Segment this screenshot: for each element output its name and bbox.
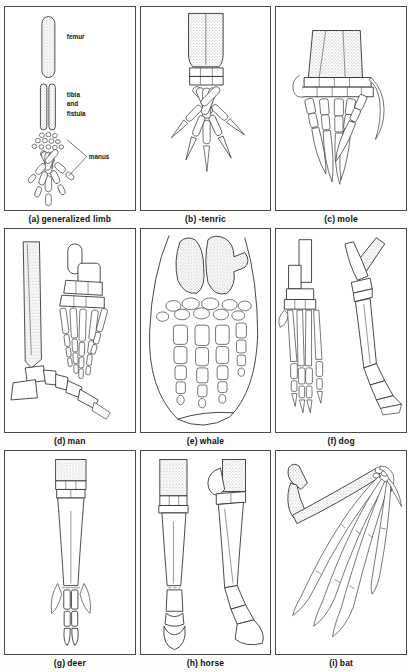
panel-c-mole[interactable]: [275, 6, 407, 211]
caption-h-text: horse: [200, 658, 224, 668]
comparative-limb-figure: femur tibia and fistula manus (a)general…: [0, 0, 411, 672]
label-tibia-line1: tibia: [67, 91, 80, 98]
bone-femur: [42, 17, 55, 78]
caption-b: (b)-tenric: [140, 211, 272, 226]
panel-i-bat[interactable]: [275, 450, 407, 655]
caption-d-text: man: [68, 436, 86, 446]
digit-rays: [62, 588, 80, 646]
panel-cell-b: (b)-tenric: [140, 6, 272, 226]
bone-radius-ulna: [205, 236, 247, 294]
caption-d-tag: (d): [54, 436, 65, 446]
bone-humerus: [176, 238, 204, 293]
caption-c: (c)mole: [275, 211, 407, 226]
panel-cell-e: (e)whale: [140, 228, 272, 448]
flipper-edge: [177, 412, 233, 419]
caption-e-text: whale: [200, 436, 225, 446]
caption-h: (h)horse: [140, 655, 272, 670]
caption-e: (e)whale: [140, 433, 272, 448]
panel-f-dog[interactable]: [275, 228, 407, 433]
panel-cell-h: (h)horse: [140, 450, 272, 670]
panel-a-generalized-limb[interactable]: femur tibia and fistula manus: [4, 6, 136, 211]
panel-e-whale[interactable]: [140, 228, 272, 433]
dog-front-view: [279, 240, 323, 413]
panel-c-art: [276, 7, 406, 210]
caption-g-tag: (g): [54, 658, 65, 668]
digit-rays: [293, 477, 391, 637]
panel-f-art: [276, 229, 406, 432]
carpal-block: [189, 68, 222, 85]
panel-cell-g: (g)deer: [4, 450, 136, 670]
caption-d: (d)man: [4, 433, 136, 448]
horse-side-view: [208, 460, 263, 645]
caption-b-tag: (b): [185, 214, 196, 224]
horse-front-view: [158, 460, 187, 650]
carpal-plate: [302, 78, 373, 97]
panel-i-art: [276, 451, 406, 654]
panel-cell-a: femur tibia and fistula manus (a)general…: [4, 6, 136, 226]
panel-g-art: [5, 451, 135, 654]
panel-e-art: [141, 229, 271, 432]
panel-h-horse[interactable]: [140, 450, 272, 655]
caption-f: (f)dog: [275, 433, 407, 448]
label-manus: manus: [89, 153, 110, 160]
caption-i: (i)bat: [275, 655, 407, 670]
caption-i-text: bat: [340, 658, 353, 668]
panel-cell-f: (f)dog: [275, 228, 407, 448]
label-femur: femur: [67, 33, 85, 40]
panel-b-tenrec[interactable]: [140, 6, 272, 211]
dog-side-view: [345, 238, 401, 415]
caption-f-tag: (f): [328, 436, 337, 446]
caption-a-text: generalized limb: [41, 214, 111, 224]
caption-i-tag: (i): [329, 658, 338, 668]
carpal-bones: [156, 298, 251, 321]
hand-skeleton: [60, 244, 108, 379]
bone-tibia: [56, 460, 86, 481]
caption-c-tag: (c): [324, 214, 335, 224]
label-tibia-line2: and: [67, 100, 78, 107]
panel-g-deer[interactable]: [4, 450, 136, 655]
bone-fistula: [49, 84, 55, 130]
panel-cell-c: (c)mole: [275, 6, 407, 226]
caption-g: (g)deer: [4, 655, 136, 670]
panel-h-art: [141, 451, 271, 654]
carpal-bones: [32, 132, 64, 149]
bone-splint-right: [80, 583, 91, 613]
bone-forearm: [309, 31, 363, 78]
bone-tibia: [40, 84, 46, 130]
caption-a: (a)generalized limb: [4, 211, 136, 226]
caption-g-text: deer: [67, 658, 86, 668]
panel-a-art: femur tibia and fistula manus: [5, 7, 135, 210]
digit-rays: [27, 148, 75, 205]
tarsal-bones: [11, 366, 110, 419]
panel-grid: femur tibia and fistula manus (a)general…: [0, 0, 411, 672]
panel-d-art: [5, 229, 135, 432]
caption-h-tag: (h): [187, 658, 198, 668]
digit-rays: [305, 94, 369, 185]
panel-cell-d: (d)man: [4, 228, 136, 448]
panel-b-art: [141, 7, 271, 210]
caption-f-text: dog: [339, 436, 355, 446]
tarsal-bones: [56, 481, 86, 498]
manus-leader-lines: [67, 139, 87, 175]
panel-d-man[interactable]: [4, 228, 136, 433]
caption-b-text: -tenric: [199, 214, 226, 224]
bone-splint-left: [51, 583, 62, 613]
label-tibia-line3: fistula: [67, 110, 86, 117]
bone-tibia: [23, 242, 41, 368]
digit-rays: [168, 85, 246, 171]
caption-a-tag: (a): [28, 214, 39, 224]
digit-rays: [173, 323, 246, 408]
caption-c-text: mole: [337, 214, 358, 224]
panel-cell-i: (i)bat: [275, 450, 407, 670]
caption-e-tag: (e): [187, 436, 198, 446]
bone-falciform: [293, 75, 304, 97]
